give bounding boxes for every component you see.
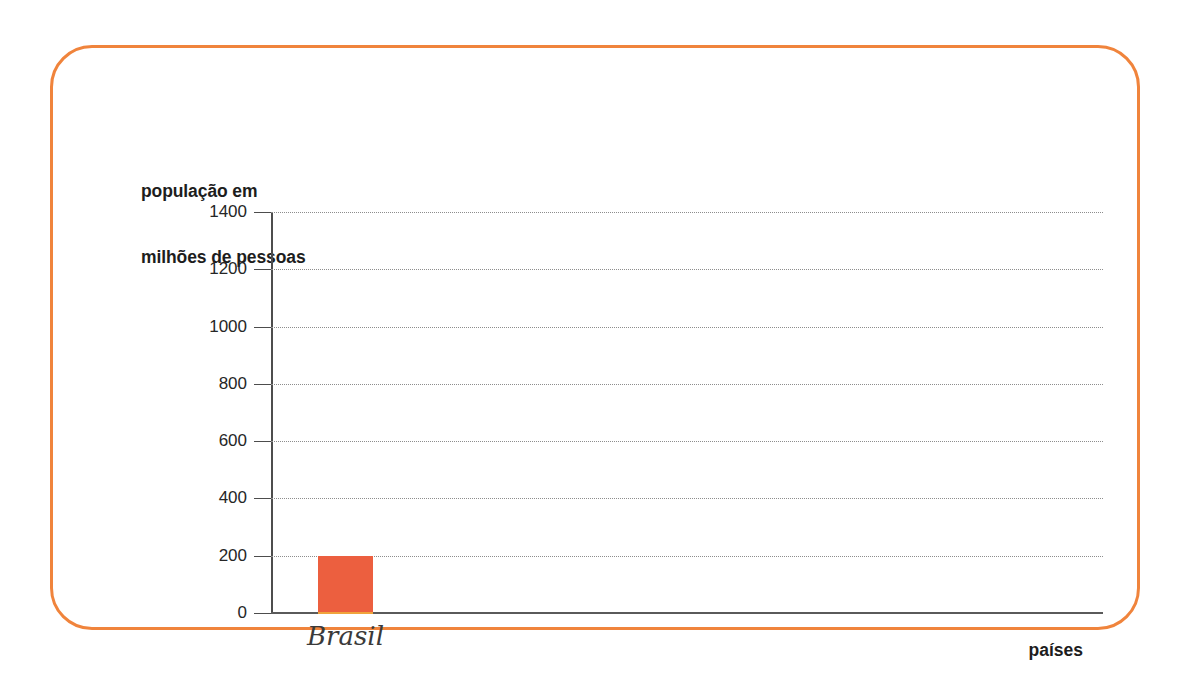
y-axis-tick-mark [254, 613, 271, 614]
y-axis-tick-label: 600 [219, 431, 247, 451]
y-axis-tick-label: 1400 [209, 202, 247, 222]
bar-brasil [318, 556, 373, 613]
y-axis-tick-label: 1000 [209, 317, 247, 337]
y-axis-tick-label: 800 [219, 374, 247, 394]
gridline [271, 212, 1103, 213]
y-axis-tick-mark [254, 384, 271, 385]
y-axis-tick-mark [254, 441, 271, 442]
bar-baseline-accent [318, 612, 373, 614]
y-axis-tick-mark [254, 556, 271, 557]
gridline [271, 269, 1103, 270]
chart-frame: população em milhões de pessoas 02004006… [50, 45, 1140, 630]
y-axis-tick-mark [254, 327, 271, 328]
y-axis-tick-mark [254, 212, 271, 213]
gridline [271, 498, 1103, 499]
gridline [271, 327, 1103, 328]
y-axis-tick-label: 1200 [209, 259, 247, 279]
x-axis-label: países [1029, 640, 1083, 661]
gridline [271, 441, 1103, 442]
gridline [271, 384, 1103, 385]
y-axis-tick-label: 0 [238, 603, 247, 623]
plot-area: 0200400600800100012001400Brasil [271, 212, 1103, 613]
y-axis-tick-label: 400 [219, 488, 247, 508]
y-axis-tick-label: 200 [219, 546, 247, 566]
y-axis-label-line-1: população em [141, 180, 306, 202]
x-axis-category-label-brasil: Brasil [307, 621, 384, 651]
y-axis-tick-mark [254, 269, 271, 270]
y-axis-tick-mark [254, 498, 271, 499]
gridline [271, 556, 1103, 557]
